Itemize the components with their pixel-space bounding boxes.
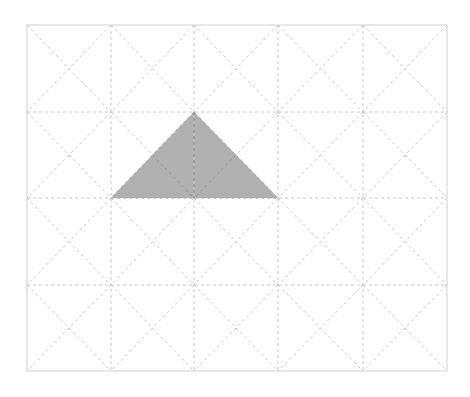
triangle-grid-diagram (0, 0, 470, 397)
